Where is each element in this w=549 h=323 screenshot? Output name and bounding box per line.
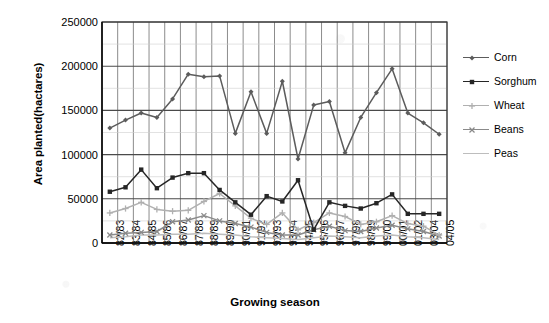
data-point-marker bbox=[217, 188, 221, 192]
data-point-marker bbox=[139, 167, 143, 171]
chart-container: Area planted(hactares) Growing season 05… bbox=[0, 0, 549, 323]
data-point-marker bbox=[202, 171, 206, 175]
data-point-marker bbox=[107, 126, 112, 131]
legend-label: Peas bbox=[493, 147, 518, 159]
data-point-marker bbox=[311, 103, 316, 108]
data-point-marker bbox=[280, 79, 285, 84]
data-point-marker bbox=[280, 199, 284, 203]
legend-marker-icon bbox=[466, 124, 478, 136]
legend-marker-icon bbox=[466, 52, 478, 64]
legend-swatch-x-icon bbox=[463, 129, 489, 130]
data-point-marker bbox=[421, 212, 425, 216]
legend-swatch-square-icon bbox=[463, 81, 489, 82]
data-point-marker bbox=[327, 200, 331, 204]
data-point-marker bbox=[123, 118, 128, 123]
data-point-marker bbox=[374, 201, 378, 205]
legend-item-peas[interactable]: Peas bbox=[463, 146, 518, 160]
data-point-marker bbox=[343, 204, 347, 208]
data-point-marker bbox=[327, 99, 332, 104]
legend-label: Sorghum bbox=[493, 75, 537, 87]
data-point-marker bbox=[264, 194, 268, 198]
legend-item-beans[interactable]: Beans bbox=[463, 122, 524, 136]
data-point-marker bbox=[139, 111, 144, 116]
legend-item-wheat[interactable]: Wheat bbox=[463, 98, 524, 112]
data-point-marker bbox=[170, 175, 174, 179]
data-point-marker bbox=[201, 74, 206, 79]
data-point-marker bbox=[296, 157, 301, 162]
data-point-marker bbox=[217, 73, 222, 78]
data-point-marker bbox=[406, 212, 410, 216]
legend-swatch-plus-icon bbox=[463, 105, 489, 106]
legend-label: Wheat bbox=[493, 99, 524, 111]
plot-area bbox=[0, 0, 549, 323]
data-point-marker bbox=[186, 171, 190, 175]
data-point-marker bbox=[470, 55, 475, 60]
data-point-marker bbox=[249, 213, 253, 217]
legend-marker-icon bbox=[466, 100, 478, 112]
data-point-marker bbox=[233, 200, 237, 204]
data-point-marker bbox=[437, 212, 441, 216]
data-point-marker bbox=[248, 89, 253, 94]
legend-swatch-diamond-icon bbox=[463, 57, 489, 58]
legend-item-corn[interactable]: Corn bbox=[463, 50, 517, 64]
legend-marker-icon bbox=[466, 148, 478, 160]
data-point-marker bbox=[470, 79, 474, 83]
legend-label: Corn bbox=[493, 51, 517, 63]
legend-label: Beans bbox=[493, 123, 524, 135]
data-point-marker bbox=[155, 186, 159, 190]
legend-swatch-line-icon bbox=[463, 153, 489, 154]
data-point-marker bbox=[233, 131, 238, 136]
data-point-marker bbox=[312, 228, 316, 232]
data-point-marker bbox=[123, 185, 127, 189]
data-point-marker bbox=[108, 190, 112, 194]
data-point-marker bbox=[359, 206, 363, 210]
legend-item-sorghum[interactable]: Sorghum bbox=[463, 74, 537, 88]
data-point-marker bbox=[390, 192, 394, 196]
legend-marker-icon bbox=[466, 76, 478, 88]
data-point-marker bbox=[264, 131, 269, 136]
data-point-marker bbox=[296, 178, 300, 182]
